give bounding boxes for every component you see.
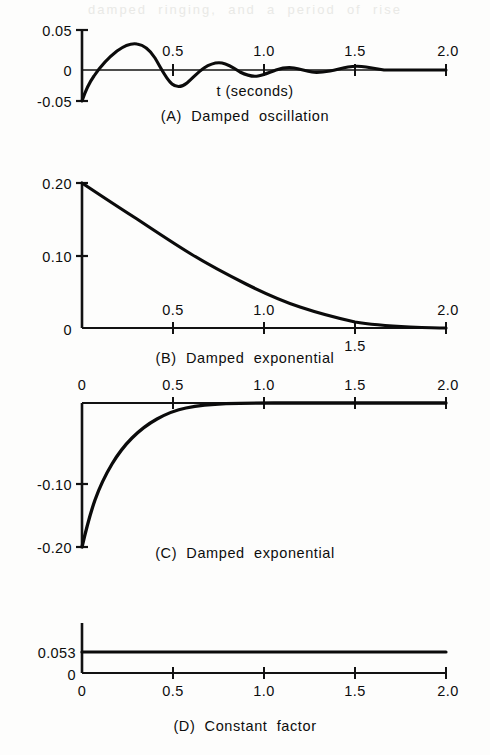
panel-c-caption: (C) Damped exponential	[0, 545, 490, 561]
panel-b-xlabel-0.5: 0.5	[162, 302, 183, 318]
panel-d-xlabel-0: 0	[78, 683, 86, 699]
panel-c-ylabel-mid: -0.10	[37, 477, 72, 493]
panel-d-ylabel-value: 0.053	[38, 645, 76, 661]
panel-a-xlabel-1.5: 1.5	[344, 43, 365, 59]
panel-a-ylabel-zero: 0	[64, 63, 72, 79]
panel-c-xlabel-1.0: 1.0	[253, 380, 274, 393]
panel-a-damped-oscillation: 0.05 0 -0.05 0.5 1.0 1.5 2.0 t (seconds)…	[0, 0, 490, 135]
panel-c-xlabel-0: 0	[78, 380, 86, 393]
panel-d-constant-factor: 0.053 0 0 0.5 1.0 1.5 2.0 (D) Constant f…	[0, 610, 490, 755]
panel-d-xlabel-1.5: 1.5	[344, 683, 365, 699]
panel-d-xlabel-2.0: 2.0	[437, 683, 458, 699]
panel-a-ylabel-top: 0.05	[42, 23, 72, 39]
figure-damped-response-components: damped ringing, and a period of rise 0.0…	[0, 0, 490, 755]
panel-a-xlabel-0.5: 0.5	[162, 43, 183, 59]
panel-c-xlabel-0.5: 0.5	[162, 380, 183, 393]
panel-c-curve	[82, 403, 446, 547]
panel-a-x-axis-title: t (seconds)	[216, 83, 293, 99]
panel-a-caption: (A) Damped oscillation	[0, 108, 490, 124]
panel-b-caption: (B) Damped exponential	[0, 350, 490, 366]
panel-b-ylabel-zero: 0	[64, 322, 72, 338]
panel-d-caption: (D) Constant factor	[0, 718, 490, 734]
panel-d-xlabel-1.0: 1.0	[253, 683, 274, 699]
panel-b-plot: 0.20 0.10 0 0.5 1.0 1.5 2.0	[0, 165, 490, 365]
panel-c-xlabel-2.0: 2.0	[437, 380, 458, 393]
panel-a-xlabel-1.0: 1.0	[253, 43, 274, 59]
panel-b-ylabel-mid: 0.10	[42, 249, 72, 265]
panel-c-xlabel-1.5: 1.5	[344, 380, 365, 393]
panel-c-damped-exponential: -0.10 -0.20 0 0.5 1.0 1.5 2.0 (C) Damped…	[0, 380, 490, 580]
panel-d-ylabel-zero: 0	[68, 667, 76, 683]
panel-a-xlabel-2.0: 2.0	[437, 43, 458, 59]
panel-d-xlabel-0.5: 0.5	[162, 683, 183, 699]
panel-b-xlabel-1.0: 1.0	[253, 302, 274, 318]
panel-b-ylabel-top: 0.20	[42, 176, 72, 192]
panel-b-xlabel-2.0: 2.0	[437, 302, 458, 318]
panel-b-damped-exponential: 0.20 0.10 0 0.5 1.0 1.5 2.0 (B) Damped e…	[0, 165, 490, 365]
